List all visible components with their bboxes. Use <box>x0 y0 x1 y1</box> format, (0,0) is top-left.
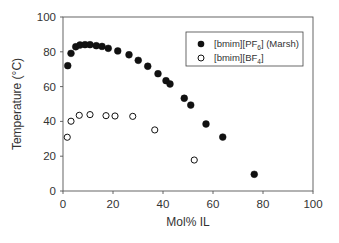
data-point <box>68 50 75 57</box>
data-point <box>135 57 142 64</box>
y-tick-label: 60 <box>43 81 56 93</box>
data-point <box>152 127 158 133</box>
y-tick-label: 0 <box>50 185 56 197</box>
data-point <box>187 102 194 109</box>
data-point <box>155 70 162 77</box>
x-tick-label: 40 <box>157 198 170 210</box>
data-point <box>76 112 82 118</box>
data-point <box>64 62 71 69</box>
y-axis: 020406080100 <box>37 11 63 197</box>
data-point <box>114 48 121 55</box>
data-point <box>112 113 118 119</box>
x-tick-label: 60 <box>207 198 220 210</box>
x-axis-title: Mol% IL <box>166 215 210 229</box>
data-point <box>87 41 94 48</box>
data-point <box>68 118 74 124</box>
legend-label-pf6: [bmim][PF6] (Marsh) <box>214 38 299 51</box>
x-axis: 020406080100 <box>60 191 323 210</box>
data-point <box>167 81 174 88</box>
data-point <box>126 51 133 58</box>
scatter-chart: 020406080100 020406080100 Mol% IL Temper… <box>0 0 339 243</box>
y-tick-label: 20 <box>43 150 56 162</box>
data-point <box>99 43 106 50</box>
legend-label-bf4: [bmim][BF4] <box>214 52 264 65</box>
legend: [bmim][PF6] (Marsh) [bmim][BF4] <box>186 32 303 66</box>
data-point <box>64 134 70 140</box>
data-point <box>219 134 226 141</box>
x-tick-label: 100 <box>303 198 322 210</box>
data-point <box>191 157 197 163</box>
y-tick-label: 40 <box>43 115 56 127</box>
y-tick-label: 100 <box>37 11 56 23</box>
x-tick-label: 0 <box>60 198 66 210</box>
data-point <box>144 63 151 70</box>
data-point <box>105 45 112 52</box>
data-point <box>251 171 258 178</box>
data-point <box>130 113 136 119</box>
data-point <box>203 121 210 128</box>
x-tick-label: 20 <box>107 198 120 210</box>
data-point <box>181 95 188 102</box>
series-1 <box>64 112 197 164</box>
y-axis-title: Temperature (°C) <box>10 58 24 150</box>
data-point <box>103 113 109 119</box>
legend-marker-open-icon <box>198 55 204 61</box>
legend-marker-filled-icon <box>198 41 205 48</box>
x-tick-label: 80 <box>257 198 270 210</box>
y-tick-label: 80 <box>43 46 56 58</box>
data-point <box>87 112 93 118</box>
